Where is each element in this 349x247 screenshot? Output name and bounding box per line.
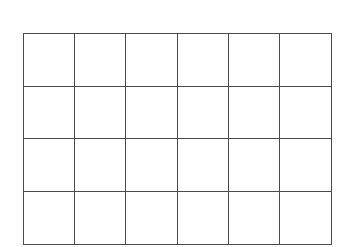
empty-grid-table: [23, 33, 332, 245]
grid-cell: [280, 139, 331, 192]
grid-cell: [126, 139, 177, 192]
grid-cell: [178, 87, 229, 140]
grid-cell: [229, 87, 280, 140]
grid-cell: [178, 34, 229, 87]
grid-cell: [126, 87, 177, 140]
grid-cell: [280, 34, 331, 87]
grid-cell: [24, 192, 75, 245]
grid-cell: [75, 87, 126, 140]
grid-cell: [126, 192, 177, 245]
grid-cell: [75, 192, 126, 245]
grid-cell: [229, 192, 280, 245]
grid-cell: [229, 34, 280, 87]
grid-cell: [24, 87, 75, 140]
grid-cell: [75, 34, 126, 87]
grid-cell: [126, 34, 177, 87]
grid-cell: [280, 192, 331, 245]
grid-cell: [24, 34, 75, 87]
grid-cell: [178, 139, 229, 192]
grid-cell: [280, 87, 331, 140]
grid-cell: [75, 139, 126, 192]
grid-cell: [24, 139, 75, 192]
canvas: [0, 0, 349, 247]
grid-cell: [229, 139, 280, 192]
grid-cell: [178, 192, 229, 245]
